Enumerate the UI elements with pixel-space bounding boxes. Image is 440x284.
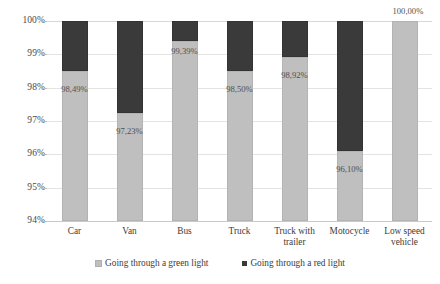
y-tick-label: 99% <box>5 49 45 59</box>
y-tick-label: 94% <box>5 216 45 226</box>
bar-segment-green-light[interactable] <box>172 41 198 221</box>
chart-legend: Going through a green lightGoing through… <box>0 258 440 269</box>
stacked-bar[interactable] <box>337 21 363 221</box>
bar-segment-red-light[interactable] <box>227 21 253 71</box>
bar-slot[interactable]: 97,23% <box>102 21 157 221</box>
legend-label: Going through a green light <box>105 258 208 269</box>
legend-swatch-green-icon <box>95 260 102 267</box>
x-category-label: Car <box>44 226 106 237</box>
y-tick-label: 97% <box>5 116 45 126</box>
bar-data-label: 96,10% <box>320 165 380 174</box>
stacked-bar[interactable] <box>62 21 88 221</box>
bar-segment-green-light[interactable] <box>337 151 363 221</box>
bar-data-label: 97,23% <box>100 127 160 136</box>
bar-data-label: 98,49% <box>45 85 105 94</box>
bar-slot[interactable]: 100,00% <box>377 21 432 221</box>
bar-segment-green-light[interactable] <box>392 21 418 221</box>
stacked-bar[interactable] <box>392 21 418 221</box>
bar-segment-red-light[interactable] <box>172 21 198 41</box>
stacked-bar-chart: 100%99%98%97%96%95%94% 98,49%97,23%99,39… <box>0 0 440 284</box>
y-tick-label: 98% <box>5 83 45 93</box>
stacked-bar[interactable] <box>227 21 253 221</box>
bar-data-label: 99,39% <box>155 47 215 56</box>
bar-data-label: 98,50% <box>210 85 270 94</box>
bar-slot[interactable]: 98,92% <box>267 21 322 221</box>
bar-slot[interactable]: 98,50% <box>212 21 267 221</box>
bar-segment-red-light[interactable] <box>117 21 143 113</box>
legend-swatch-red-icon <box>242 261 247 266</box>
y-tick-label: 96% <box>5 149 45 159</box>
x-category-label: Motocycle <box>319 226 381 237</box>
x-category-label: Truck with trailer <box>264 226 326 247</box>
x-category-label: Truck <box>209 226 271 237</box>
legend-item[interactable]: Going through a red light <box>242 258 345 269</box>
bar-segment-red-light[interactable] <box>337 21 363 151</box>
y-tick-label: 95% <box>5 183 45 193</box>
bar-slot[interactable]: 98,49% <box>47 21 102 221</box>
bar-segment-green-light[interactable] <box>282 57 308 221</box>
y-tick-label: 100% <box>5 16 45 26</box>
y-tick-mark <box>43 221 47 222</box>
x-category-label: Bus <box>154 226 216 237</box>
bar-slot[interactable]: 96,10% <box>322 21 377 221</box>
bar-data-label: 98,92% <box>265 71 325 80</box>
bar-slot[interactable]: 99,39% <box>157 21 212 221</box>
bar-segment-red-light[interactable] <box>282 21 308 57</box>
stacked-bar[interactable] <box>117 21 143 221</box>
legend-item[interactable]: Going through a green light <box>95 258 208 269</box>
bar-segment-red-light[interactable] <box>62 21 88 71</box>
x-category-label: Van <box>99 226 161 237</box>
plot-area: 98,49%97,23%99,39%98,50%98,92%96,10%100,… <box>47 21 432 221</box>
bar-data-label: 100,00% <box>393 7 440 16</box>
stacked-bar[interactable] <box>282 21 308 221</box>
x-category-label: Low speed vehicle <box>374 226 436 247</box>
legend-label: Going through a red light <box>250 258 345 269</box>
gridline <box>47 221 432 222</box>
